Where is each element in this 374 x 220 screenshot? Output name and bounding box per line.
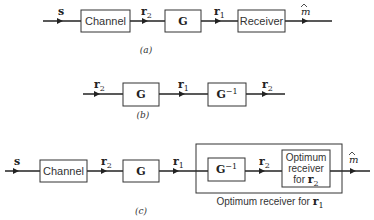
channel-label: Channel — [85, 15, 126, 27]
enclosure-label: Optimum receiver for r1 — [216, 195, 323, 210]
receiver-label: Receiver — [240, 15, 284, 27]
signal-r1-label: r1 — [178, 78, 189, 93]
receiver-line-2: receiver — [288, 163, 324, 174]
signal-s-label: s — [14, 155, 20, 168]
arrow-icon — [57, 18, 63, 24]
caption-b: (b) — [137, 110, 150, 120]
diagram-a: s Channel r2 G r1 Receiver m (a) — [43, 4, 332, 55]
arrow-icon — [302, 18, 308, 24]
signal-r2-label: r2 — [141, 5, 152, 20]
signal-r1-label: r1 — [173, 155, 184, 170]
caption-a: (a) — [140, 45, 153, 55]
output-m-hat-label: m — [349, 154, 358, 165]
signal-r2-inner-label: r2 — [259, 155, 270, 170]
signal-s-label: s — [58, 5, 64, 18]
signal-r1-label: r1 — [214, 5, 225, 20]
arrow-icon — [350, 168, 356, 174]
output-m-hat-label: m — [301, 6, 310, 17]
block-diagrams: s Channel r2 G r1 Receiver m (a) r2 G r1… — [0, 0, 374, 220]
g-label: G — [136, 165, 145, 178]
signal-r2-label: r2 — [101, 155, 112, 170]
diagram-b: r2 G r1 G−1 r2 (b) — [83, 78, 285, 120]
caption-c: (c) — [135, 206, 148, 216]
signal-r2-input-label: r2 — [94, 78, 105, 93]
signal-r2-output-label: r2 — [262, 78, 273, 93]
arrow-icon — [13, 168, 19, 174]
channel-label: Channel — [43, 165, 84, 177]
diagram-c: s Channel r2 G r1 G−1 r2 Optimum receive… — [5, 144, 370, 216]
g-label: G — [178, 15, 187, 28]
g-label: G — [136, 88, 145, 101]
receiver-line-1: Optimum — [286, 152, 327, 163]
